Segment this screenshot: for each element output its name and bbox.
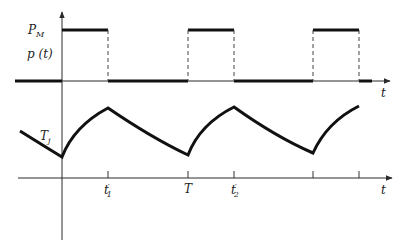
pulse-train <box>15 30 372 81</box>
tj-temperature-curve <box>20 106 359 157</box>
tj-curve-label: Tj <box>40 129 51 145</box>
pm-level-label: PM <box>27 23 45 39</box>
tick-label-period-T: T <box>184 182 193 196</box>
lower-axis-ticks <box>108 171 359 178</box>
p-of-t-label: p (t) <box>27 47 53 61</box>
pulse-edges-dashed <box>108 30 359 81</box>
upper-time-axis-label: t <box>381 86 386 100</box>
timing-diagram: t PM p (t) t t′1 T <box>0 0 406 251</box>
tick-label-t1-prime: t′1 <box>104 182 112 199</box>
tick-label-t2-prime: t′2 <box>231 182 239 199</box>
lower-time-axis-label: t <box>381 183 386 197</box>
pm-label-subscript: M <box>35 30 45 39</box>
